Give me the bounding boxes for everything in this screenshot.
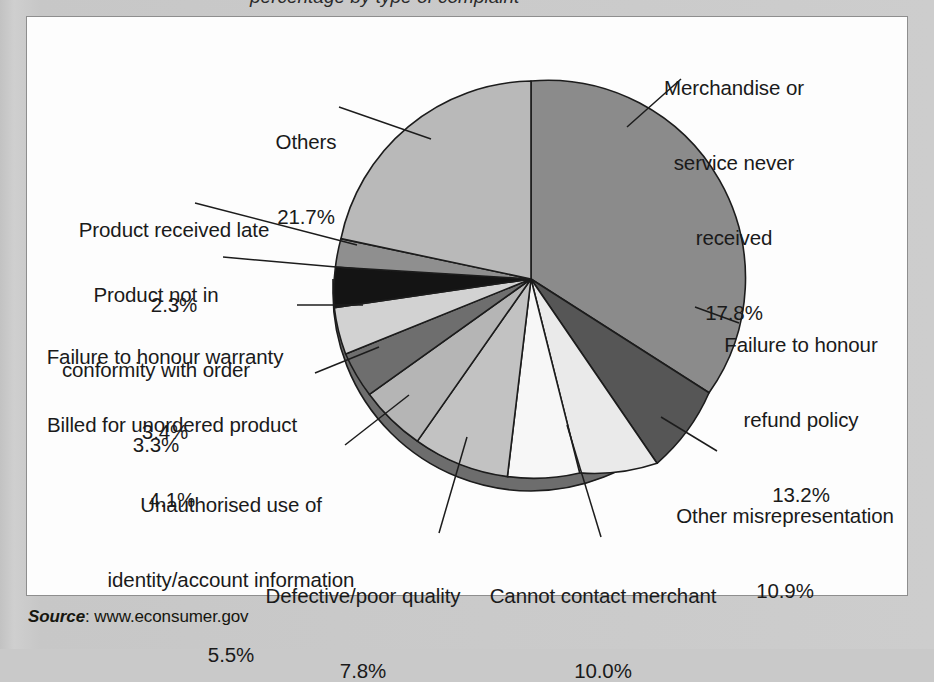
source-separator: : bbox=[85, 607, 94, 626]
source-label: Source bbox=[28, 607, 85, 626]
label-cannot-contact-merchant-value: 10.0% bbox=[479, 658, 727, 682]
label-product-received-late-value: 2.3% bbox=[55, 292, 293, 317]
label-others-line-1: Others bbox=[241, 129, 371, 154]
label-others: Others 21.7% bbox=[241, 79, 371, 279]
source-url: www.econsumer.gov bbox=[94, 607, 248, 626]
figure-frame: Merchandise or service never received 17… bbox=[26, 16, 908, 596]
label-unauthorised-identity-use-line-2: identity/account information bbox=[83, 567, 379, 592]
label-merchandise-line-2: service never bbox=[619, 150, 849, 175]
cropped-caption-strip: percentage by type of complaint bbox=[0, 0, 934, 14]
label-others-value: 21.7% bbox=[241, 204, 371, 229]
label-unauthorised-identity-use-value: 5.5% bbox=[83, 642, 379, 667]
label-not-in-conformity-value: 3.3% bbox=[41, 432, 271, 457]
label-refund-policy-line-2: refund policy bbox=[693, 407, 909, 432]
source-note: Source: www.econsumer.gov bbox=[28, 607, 249, 627]
label-cannot-contact-merchant: Cannot contact merchant 10.0% bbox=[479, 533, 727, 682]
cropped-caption-text: percentage by type of complaint bbox=[250, 0, 519, 8]
label-other-misrepresentation-line-1: Other misrepresentation bbox=[659, 503, 911, 528]
label-refund-policy-line-1: Failure to honour bbox=[693, 332, 909, 357]
label-cannot-contact-merchant-line-1: Cannot contact merchant bbox=[479, 583, 727, 608]
label-merchandise-line-3: received bbox=[619, 225, 849, 250]
label-merchandise-line-1: Merchandise or bbox=[619, 75, 849, 100]
